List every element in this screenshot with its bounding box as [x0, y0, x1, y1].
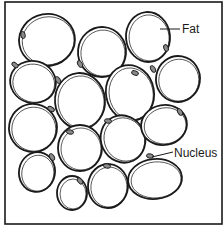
cell-membrane	[58, 125, 102, 171]
adipose-tissue-diagram: Fat Nucleus	[0, 0, 224, 227]
fat-label: Fat	[182, 22, 200, 36]
fat-cell	[58, 125, 102, 171]
fat-cell	[57, 176, 87, 210]
nucleus-label: Nucleus	[174, 146, 217, 160]
